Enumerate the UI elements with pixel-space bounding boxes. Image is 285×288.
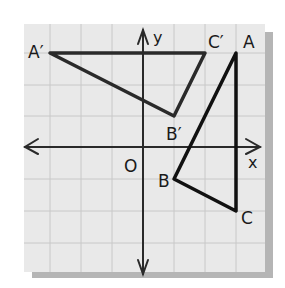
- label-a: A: [243, 32, 255, 52]
- label-a-prime: A′: [28, 42, 44, 62]
- x-axis-label: x: [248, 153, 257, 172]
- coordinate-grid-diagram: A′ C′ B′ A B C y x O: [0, 0, 285, 288]
- label-c: C: [241, 208, 253, 228]
- y-axis-label: y: [153, 28, 162, 47]
- label-b-prime: B′: [166, 124, 182, 144]
- label-c-prime: C′: [208, 32, 224, 52]
- origin-label: O: [124, 156, 137, 176]
- paper-shadow-right: [265, 32, 273, 278]
- label-b: B: [158, 171, 170, 191]
